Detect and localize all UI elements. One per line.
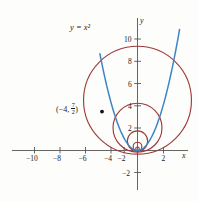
curve-label: y = x² xyxy=(70,22,90,32)
marked-point-dot xyxy=(100,110,104,114)
x-tick-label--4: −4 xyxy=(104,154,112,163)
y-tick-label--2: −2 xyxy=(122,169,130,178)
y-tick-label-10: 10 xyxy=(124,35,132,44)
x-axis-label: x xyxy=(182,151,186,160)
x-tick-label-2: 2 xyxy=(162,154,166,163)
y-tick-label-8: 8 xyxy=(128,57,132,66)
point-label-suffix: ) xyxy=(75,105,78,114)
x-tick-label--8: −8 xyxy=(53,154,61,163)
point-label-prefix: (−4, xyxy=(56,105,71,114)
marked-point-label: (−4, 72) xyxy=(56,102,78,116)
y-tick-label-4: 4 xyxy=(128,102,132,111)
figure-canvas: y = x² (−4, 72) −10 −8 −6 −4 −2 2 −2 2 4… xyxy=(0,0,198,202)
x-tick-label--10: −10 xyxy=(26,154,38,163)
y-axis-label: y xyxy=(140,16,144,25)
y-tick-label-6: 6 xyxy=(128,80,132,89)
parabola-curve xyxy=(100,29,180,150)
plot-svg xyxy=(0,0,198,202)
y-tick-label-2: 2 xyxy=(128,124,132,133)
x-tick-label--6: −6 xyxy=(79,154,87,163)
x-tick-label--2: −2 xyxy=(118,154,126,163)
